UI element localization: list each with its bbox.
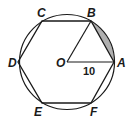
label-A: A: [116, 56, 126, 70]
radius-length-label: 10: [83, 65, 95, 77]
hexagon-diagram: A B C D E F O 10: [0, 0, 136, 125]
radius-OB: [67, 21, 91, 62]
label-F: F: [90, 105, 98, 119]
label-B: B: [87, 6, 96, 20]
label-D: D: [8, 56, 17, 70]
label-C: C: [37, 6, 46, 20]
label-O: O: [56, 56, 66, 70]
label-E: E: [34, 105, 43, 119]
